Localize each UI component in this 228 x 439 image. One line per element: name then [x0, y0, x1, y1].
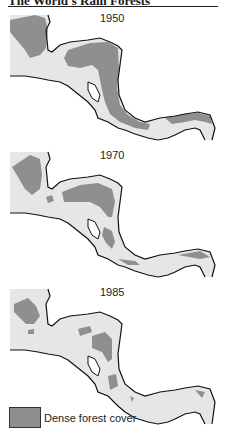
central-america-map-1970 [0, 147, 228, 282]
legend-swatch-dense-forest [9, 407, 41, 428]
map-panel-1970: 1970 [0, 147, 228, 282]
legend-label: Dense forest cover [44, 412, 136, 424]
page-title: The World's Rain Forests [8, 0, 150, 9]
map-legend: Dense forest cover [9, 407, 136, 428]
central-america-map-1950 [0, 10, 228, 145]
map-panel-1950: 1950 [0, 10, 228, 145]
title-rule [8, 6, 218, 7]
